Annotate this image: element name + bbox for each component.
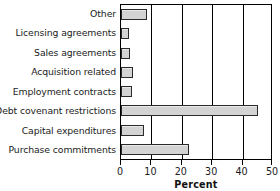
x-tick-mark-0 — [120, 160, 121, 165]
category-label-debt-covenant-restrictions: Debt covenant restrictions — [0, 106, 118, 116]
bar-row — [121, 63, 271, 82]
bar-row — [121, 140, 271, 159]
bar-row — [121, 44, 271, 63]
bar-row — [121, 121, 271, 140]
x-tick-mark-30 — [211, 160, 212, 165]
x-tick-label-20: 20 — [175, 166, 187, 177]
x-tick-label-50: 50 — [266, 166, 278, 177]
x-axis: Percent 01020304050 — [120, 160, 272, 190]
bar-row — [121, 5, 271, 24]
bar-other — [121, 9, 147, 20]
category-axis: Other Licensing agreements Sales agreeme… — [0, 4, 118, 160]
bar-row — [121, 82, 271, 101]
bar-purchase-commitments — [121, 144, 189, 155]
bar-acquisition-related — [121, 67, 133, 78]
category-label-purchase-commitments: Purchase commitments — [9, 145, 118, 155]
bars-layer — [121, 5, 271, 159]
bar-employment-contracts — [121, 86, 132, 97]
category-label-licensing-agreements: Licensing agreements — [16, 28, 118, 38]
x-tick-mark-40 — [242, 160, 243, 165]
category-label-sales-agreements: Sales agreements — [34, 48, 118, 58]
bar-row — [121, 101, 271, 120]
bar-sales-agreements — [121, 48, 130, 59]
x-tick-label-10: 10 — [144, 166, 156, 177]
category-label-employment-contracts: Employment contracts — [13, 87, 118, 97]
category-label-other: Other — [90, 9, 118, 19]
bar-row — [121, 24, 271, 43]
x-axis-title: Percent — [120, 179, 272, 190]
bar-debt-covenant-restrictions — [121, 105, 258, 116]
bar-licensing-agreements — [121, 28, 129, 39]
x-tick-label-0: 0 — [117, 166, 123, 177]
x-tick-mark-50 — [271, 160, 272, 165]
horizontal-bar-chart: Other Licensing agreements Sales agreeme… — [0, 0, 280, 191]
x-tick-label-30: 30 — [205, 166, 217, 177]
category-label-acquisition-related: Acquisition related — [31, 67, 118, 77]
x-tick-mark-20 — [181, 160, 182, 165]
plot-area — [120, 4, 272, 160]
category-label-capital-expenditures: Capital expenditures — [22, 126, 118, 136]
bar-capital-expenditures — [121, 125, 144, 136]
x-tick-mark-10 — [150, 160, 151, 165]
x-tick-label-40: 40 — [235, 166, 247, 177]
